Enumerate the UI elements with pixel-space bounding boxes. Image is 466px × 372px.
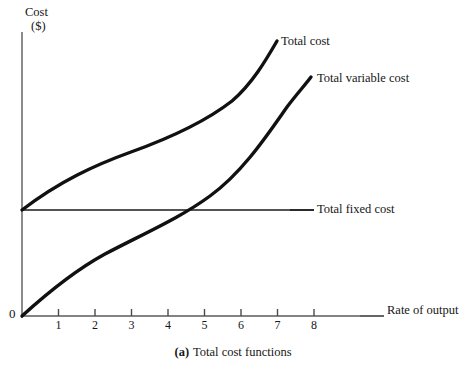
x-tick-label-8: 8	[311, 318, 317, 333]
x-tick-label-3: 3	[129, 318, 135, 333]
x-tick-label-4: 4	[165, 318, 171, 333]
curve-label-total-variable-cost: Total variable cost	[317, 71, 409, 85]
curve-total-variable-cost	[22, 77, 311, 316]
curve-label-total-fixed-cost: Total fixed cost	[317, 202, 395, 216]
curve-total-cost	[22, 41, 277, 210]
x-tick-label-5: 5	[202, 318, 208, 333]
x-tick-label-2: 2	[92, 318, 98, 333]
origin-label: 0	[9, 307, 16, 322]
figure-total-cost-functions: Cost ($) 0 Rate of output 1 2 3 4 5 6 7 …	[0, 0, 466, 372]
y-axis-title-line1: Cost	[25, 5, 48, 19]
x-tick-label-1: 1	[56, 318, 62, 333]
x-tick-label-6: 6	[238, 318, 244, 333]
figure-caption: (a)Total cost functions	[0, 345, 466, 359]
x-axis-ticks	[59, 309, 315, 316]
curve-label-total-cost: Total cost	[281, 34, 330, 48]
figure-caption-id: (a)	[175, 345, 190, 359]
x-tick-label-7: 7	[275, 318, 281, 333]
y-axis-title-line2: ($)	[31, 19, 48, 33]
y-axis-title: Cost ($)	[25, 5, 48, 33]
x-axis-title: Rate of output	[387, 303, 459, 317]
figure-caption-text: Total cost functions	[193, 345, 291, 359]
